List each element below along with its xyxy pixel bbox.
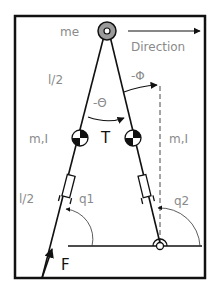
label-force: F (61, 258, 70, 273)
right-actuator-icon (136, 174, 154, 204)
label-hip-mass: me (60, 26, 79, 38)
label-q1: q1 (79, 193, 94, 205)
label-theta: -Θ (93, 97, 107, 109)
label-q2: q2 (174, 195, 189, 207)
left-actuator-icon (58, 174, 77, 204)
label-mass-inertia-right: m,I (169, 133, 188, 145)
phi-angle-arc (124, 85, 157, 92)
label-torque: T (101, 131, 110, 146)
theta-angle-arc (88, 117, 124, 121)
label-half-length-top: l/2 (48, 74, 63, 86)
label-half-length-bottom: l/2 (19, 193, 34, 205)
label-mass-inertia-left: m,I (29, 133, 48, 145)
force-arrow (42, 249, 52, 278)
label-phi: -Φ (131, 70, 145, 82)
frame-border (15, 16, 205, 278)
biped-compass-gait-diagram (0, 0, 219, 294)
left-center-of-mass-icon (72, 130, 88, 146)
right-center-of-mass-icon (125, 130, 141, 146)
left-leg (42, 32, 105, 278)
q1-angle-arc (66, 209, 93, 246)
hip-mass-icon (98, 22, 116, 40)
label-direction: Direction (131, 41, 185, 53)
